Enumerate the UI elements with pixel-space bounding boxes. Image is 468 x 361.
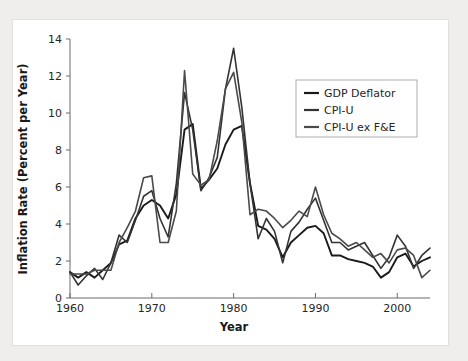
y-tick-label: 10 [48, 107, 62, 120]
x-tick-label: 2000 [383, 302, 411, 315]
x-tick-label: 1970 [138, 302, 166, 315]
y-axis-ticks: 02468101214 [48, 33, 70, 305]
x-tick-label: 1990 [301, 302, 329, 315]
x-axis-title: Year [219, 320, 249, 334]
series-line-gdp-deflator [70, 124, 430, 278]
y-tick-label: 8 [55, 144, 62, 157]
y-tick-label: 4 [55, 218, 62, 231]
y-tick-label: 12 [48, 70, 62, 83]
x-tick-label: 1980 [220, 302, 248, 315]
legend-label-1: GDP Deflator [324, 87, 396, 100]
y-tick-label: 2 [55, 255, 62, 268]
legend-label-2: CPI-U [324, 104, 354, 117]
y-tick-label: 6 [55, 181, 62, 194]
y-tick-label: 14 [48, 33, 62, 46]
chart-legend: GDP DeflatorCPI-UCPI-U ex F&E [296, 80, 417, 137]
y-axis-title: Inflation Rate (Percent per Year) [16, 63, 30, 274]
legend-label-3: CPI-U ex F&E [324, 121, 396, 134]
x-tick-label: 1960 [56, 302, 84, 315]
x-axis-ticks: 19601970198019902000 [56, 293, 411, 315]
inflation-line-chart: 02468101214 19601970198019902000 Inflati… [0, 0, 468, 361]
figure-root: 02468101214 19601970198019902000 Inflati… [0, 0, 468, 361]
